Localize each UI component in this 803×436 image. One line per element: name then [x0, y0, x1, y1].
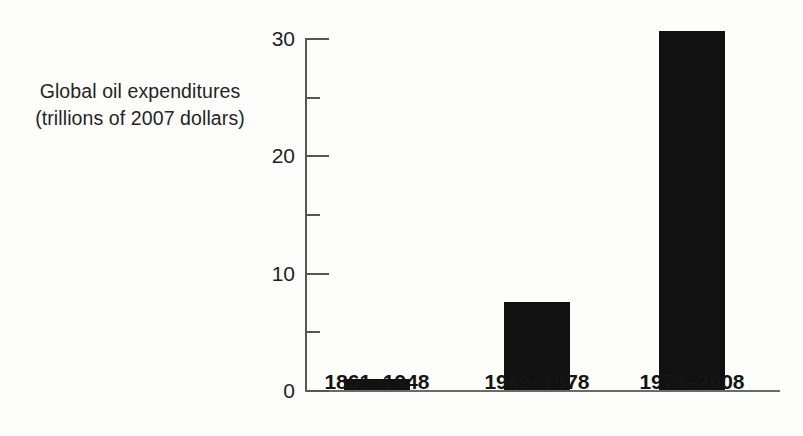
y-axis-minor-tick — [307, 331, 320, 333]
plot-area: 0102030 — [305, 30, 780, 392]
y-axis-minor-tick — [307, 97, 320, 99]
y-axis-tick-label: 30 — [272, 27, 295, 51]
x-axis-tick-label: 1949–1978 — [462, 370, 612, 394]
tick-mark — [307, 155, 329, 157]
y-axis-tick-label: 0 — [283, 379, 295, 403]
y-axis-minor-tick — [307, 214, 320, 216]
x-axis-tick-label: 1861–1948 — [302, 370, 452, 394]
y-axis-label: Global oil expenditures (trillions of 20… — [20, 78, 260, 132]
bar-chart-figure: Global oil expenditures (trillions of 20… — [0, 0, 803, 436]
x-axis-tick-label: 1979–2008 — [617, 370, 767, 394]
bar — [659, 31, 725, 390]
y-axis-tick-label: 20 — [272, 144, 295, 168]
y-axis-label-line-1: Global oil expenditures — [20, 78, 260, 105]
y-axis-tick-label: 10 — [272, 262, 295, 286]
y-axis-label-line-2: (trillions of 2007 dollars) — [20, 105, 260, 132]
tick-mark — [307, 273, 329, 275]
tick-mark — [307, 38, 329, 40]
